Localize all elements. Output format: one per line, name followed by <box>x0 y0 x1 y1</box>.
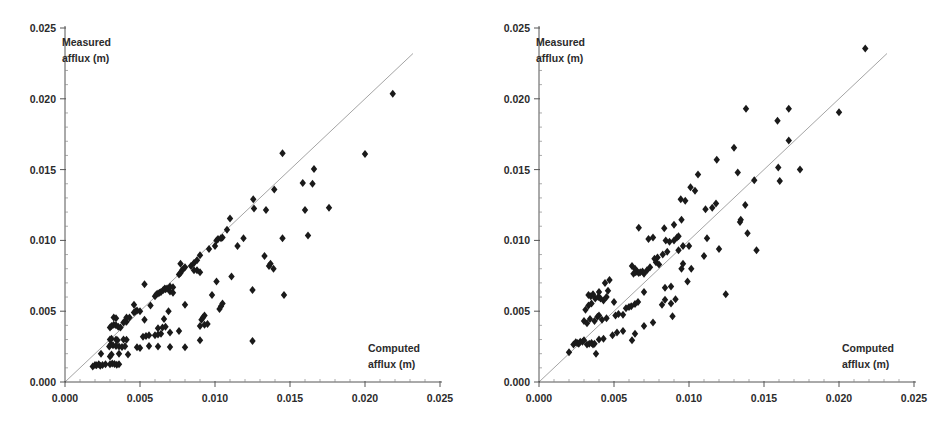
data-point <box>668 299 674 307</box>
chart-panel-left: 0.0000.0050.0100.0150.0200.0250.0000.005… <box>0 0 474 439</box>
y-axis-title-line1: Measured <box>536 36 585 48</box>
y-axis-tick-label: 0.005 <box>504 305 530 317</box>
chart-panel-right: 0.0000.0050.0100.0150.0200.0250.0000.005… <box>474 0 948 439</box>
x-axis-tick-label: 0.000 <box>52 392 78 404</box>
data-point <box>240 234 246 242</box>
data-point <box>716 245 722 253</box>
data-point <box>302 206 308 214</box>
x-axis-title-line1: Computed <box>368 342 420 354</box>
data-point <box>596 288 602 296</box>
y-axis-tick-label: 0.015 <box>504 164 530 176</box>
y-axis-tick-label: 0.005 <box>30 305 56 317</box>
data-point <box>688 265 694 273</box>
x-axis-tick-label: 0.010 <box>202 392 228 404</box>
data-point <box>279 234 285 242</box>
data-point <box>786 105 792 113</box>
data-point <box>167 343 173 351</box>
data-point <box>678 216 684 224</box>
data-point <box>735 168 741 176</box>
data-point <box>279 149 285 157</box>
data-point <box>701 252 707 260</box>
data-point <box>611 298 617 306</box>
x-axis-title-line2: afflux (m) <box>368 358 415 370</box>
data-point <box>836 108 842 116</box>
data-point <box>197 322 203 330</box>
data-point <box>704 234 710 242</box>
data-point <box>311 165 317 173</box>
x-axis-title-line2: afflux (m) <box>842 358 889 370</box>
data-point <box>645 235 651 243</box>
data-point <box>777 177 783 185</box>
data-point <box>680 242 686 250</box>
data-point <box>281 291 287 299</box>
y-axis-tick-label: 0.015 <box>30 164 56 176</box>
data-point <box>261 252 267 260</box>
data-point <box>620 327 626 335</box>
data-point <box>263 206 269 214</box>
data-point <box>165 307 171 315</box>
data-point <box>206 245 212 253</box>
x-axis-tick-label: 0.015 <box>277 392 303 404</box>
data-point <box>161 315 167 323</box>
reference-line-1to1 <box>65 53 413 382</box>
y-axis-title-line1: Measured <box>62 36 111 48</box>
chart-svg-left: 0.0000.0050.0100.0150.0200.0250.0000.005… <box>0 0 474 439</box>
reference-line-1to1 <box>539 53 887 382</box>
data-point <box>146 342 152 350</box>
data-point <box>669 312 675 320</box>
data-point <box>147 302 153 310</box>
data-point <box>650 319 656 327</box>
data-point <box>141 316 147 324</box>
y-axis-tick-label: 0.000 <box>30 376 56 388</box>
data-point <box>228 273 234 281</box>
data-point <box>155 343 161 351</box>
data-point <box>753 246 759 254</box>
data-point <box>566 348 572 356</box>
data-point <box>141 280 147 288</box>
chart-svg-right: 0.0000.0050.0100.0150.0200.0250.0000.005… <box>474 0 948 439</box>
data-point <box>702 205 708 213</box>
unity-line-group-right <box>539 53 887 382</box>
data-point <box>695 171 701 179</box>
data-point <box>116 350 122 358</box>
data-point <box>125 350 131 358</box>
data-point <box>675 246 681 254</box>
y-axis-tick-label: 0.025 <box>504 22 530 34</box>
data-point <box>636 224 642 232</box>
data-point <box>249 337 255 345</box>
data-point <box>678 195 684 203</box>
x-axis-tick-label: 0.025 <box>427 392 453 404</box>
data-point <box>682 197 688 205</box>
x-axis-tick-label: 0.005 <box>127 392 153 404</box>
data-point <box>684 277 690 285</box>
x-axis-tick-label: 0.015 <box>751 392 777 404</box>
data-point <box>786 137 792 145</box>
y-axis-title-line2: afflux (m) <box>62 52 109 64</box>
data-point <box>605 287 611 295</box>
data-point <box>661 224 667 232</box>
data-point <box>603 314 609 322</box>
data-point <box>797 166 803 174</box>
data-point <box>326 204 332 212</box>
y-axis-tick-label: 0.010 <box>504 234 530 246</box>
data-point <box>641 288 647 296</box>
data-point <box>593 350 599 358</box>
data-point <box>650 234 656 242</box>
data-point <box>300 179 306 187</box>
data-point <box>672 295 678 303</box>
data-point <box>390 90 396 98</box>
y-axis-title-line2: afflux (m) <box>536 52 583 64</box>
data-point <box>774 117 780 125</box>
data-point <box>227 214 233 222</box>
data-point <box>862 45 868 53</box>
x-axis-title-line1: Computed <box>842 342 894 354</box>
y-axis-tick-label: 0.010 <box>30 234 56 246</box>
data-point <box>249 286 255 294</box>
data-point <box>641 322 647 330</box>
data-point <box>98 350 104 358</box>
x-axis-tick-label: 0.005 <box>601 392 627 404</box>
data-point <box>176 327 182 335</box>
data-point <box>629 336 635 344</box>
data-point <box>362 150 368 158</box>
y-axis-tick-label: 0.020 <box>504 93 530 105</box>
